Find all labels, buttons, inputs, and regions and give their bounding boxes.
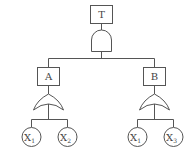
event-a-label: A [44, 71, 53, 82]
top-event-label: T [98, 9, 105, 20]
event-b-label: B [151, 71, 158, 82]
fault-tree-diagram: T A X1 X2 B X1 X3 [0, 0, 185, 152]
and-gate-icon [92, 30, 112, 52]
